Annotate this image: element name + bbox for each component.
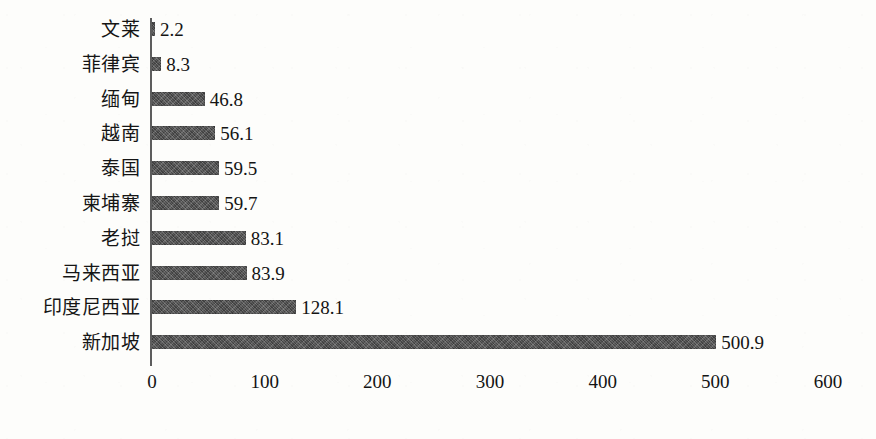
bar-fill — [152, 196, 219, 210]
bar-row: 缅甸46.8 — [0, 84, 876, 114]
bar-value-label: 59.7 — [224, 194, 257, 213]
x-axis-tick-labels: 0100200300400500600 — [0, 372, 876, 400]
bar — [152, 161, 219, 175]
bar — [152, 126, 215, 140]
bar — [152, 92, 205, 106]
bar-fill — [152, 22, 155, 36]
bar-fill — [152, 231, 246, 245]
x-axis-tick-label: 500 — [701, 372, 730, 391]
category-label: 老挝 — [101, 228, 140, 247]
bar-row: 越南56.1 — [0, 118, 876, 148]
bar-value-label: 83.1 — [251, 228, 284, 247]
bar-fill — [152, 335, 716, 349]
x-axis-tick-label: 300 — [476, 372, 505, 391]
bar — [152, 231, 246, 245]
bar — [152, 266, 247, 280]
x-axis-tick-label: 0 — [147, 372, 157, 391]
bar-fill — [152, 266, 247, 280]
category-label: 印度尼西亚 — [43, 298, 141, 317]
bar — [152, 300, 296, 314]
category-label: 泰国 — [101, 159, 140, 178]
plot-area: 文莱2.2菲律宾8.3缅甸46.8越南56.1泰国59.5柬埔寨59.7老挝83… — [0, 0, 876, 439]
bar-value-label: 8.3 — [166, 54, 190, 73]
bar-row: 柬埔寨59.7 — [0, 188, 876, 218]
bar-row: 新加坡500.9 — [0, 327, 876, 357]
bar-value-label: 128.1 — [301, 298, 344, 317]
category-label: 越南 — [101, 124, 140, 143]
bar — [152, 335, 716, 349]
bar-row: 菲律宾8.3 — [0, 49, 876, 79]
x-axis-tick-label: 400 — [588, 372, 617, 391]
category-label: 缅甸 — [101, 89, 140, 108]
category-label: 马来西亚 — [62, 263, 140, 282]
category-label: 柬埔寨 — [82, 194, 141, 213]
bar-row: 马来西亚83.9 — [0, 258, 876, 288]
bar-row: 老挝83.1 — [0, 223, 876, 253]
bar-fill — [152, 57, 161, 71]
bar-row: 印度尼西亚128.1 — [0, 292, 876, 322]
bar-row: 泰国59.5 — [0, 153, 876, 183]
bar-fill — [152, 300, 296, 314]
x-axis-tick-label: 100 — [250, 372, 279, 391]
bar — [152, 196, 219, 210]
horizontal-bar-chart: 文莱2.2菲律宾8.3缅甸46.8越南56.1泰国59.5柬埔寨59.7老挝83… — [0, 0, 876, 439]
x-axis-tick-label: 200 — [363, 372, 392, 391]
category-label: 菲律宾 — [82, 54, 141, 73]
bar-value-label: 500.9 — [721, 333, 764, 352]
bar-value-label: 46.8 — [210, 89, 243, 108]
bar-fill — [152, 161, 219, 175]
bar-fill — [152, 126, 215, 140]
bar-value-label: 56.1 — [220, 124, 253, 143]
bar-value-label: 59.5 — [224, 159, 257, 178]
category-label: 新加坡 — [82, 333, 141, 352]
bar-row: 文莱2.2 — [0, 14, 876, 44]
bar — [152, 57, 161, 71]
bar-fill — [152, 92, 205, 106]
x-axis-tick-label: 600 — [814, 372, 843, 391]
bar — [152, 22, 155, 36]
category-label: 文莱 — [101, 20, 140, 39]
bar-value-label: 2.2 — [160, 20, 184, 39]
bar-value-label: 83.9 — [252, 263, 285, 282]
